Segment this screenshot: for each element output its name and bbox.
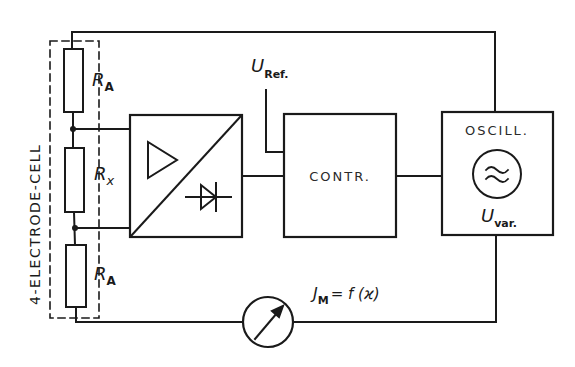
reference-label: URef. [251, 55, 288, 81]
ammeter-icon [243, 297, 293, 347]
reference-wire [266, 90, 284, 152]
ac-source-icon [473, 150, 521, 198]
meter-equation: JM= f (ϰ) [310, 284, 380, 307]
bottom-wire-right [293, 236, 496, 322]
junction-node-upper [70, 126, 76, 132]
controller-label: CONTR. [309, 169, 371, 184]
label-ra-top: RA [92, 69, 115, 94]
resistor-rx [65, 148, 84, 212]
cell-label: 4-ELECTRODE-CELL [27, 144, 43, 305]
sine-wave-icon [486, 167, 508, 182]
label-rx: Rx [94, 163, 115, 188]
circuit-diagram: 4-ELECTRODE-CELL RA Rx RA URef. CONTR. O… [0, 0, 575, 367]
label-ra-bottom: RA [94, 263, 117, 288]
junction-node-lower [72, 225, 78, 231]
bottom-wire-left [76, 307, 243, 322]
resistor-ra-top [64, 49, 83, 112]
amplifier-icon [148, 142, 177, 178]
diode-icon [186, 183, 231, 211]
resistor-ra-bottom [66, 245, 86, 307]
oscillator-output-label: Uvar. [481, 205, 517, 230]
meter-needle [255, 313, 277, 339]
oscillator-label: OSCILL. [465, 123, 529, 138]
